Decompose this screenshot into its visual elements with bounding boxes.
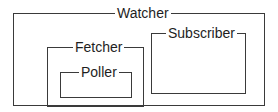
subscriber-box: Subscriber bbox=[151, 33, 246, 94]
watcher-box: Watcher Fetcher Poller Subscriber bbox=[13, 13, 265, 106]
poller-box: Poller bbox=[60, 72, 132, 98]
watcher-label: Watcher bbox=[115, 5, 171, 21]
fetcher-label: Fetcher bbox=[73, 39, 124, 55]
fetcher-box: Fetcher Poller bbox=[47, 47, 144, 107]
poller-label: Poller bbox=[79, 64, 119, 80]
subscriber-label: Subscriber bbox=[166, 25, 237, 41]
